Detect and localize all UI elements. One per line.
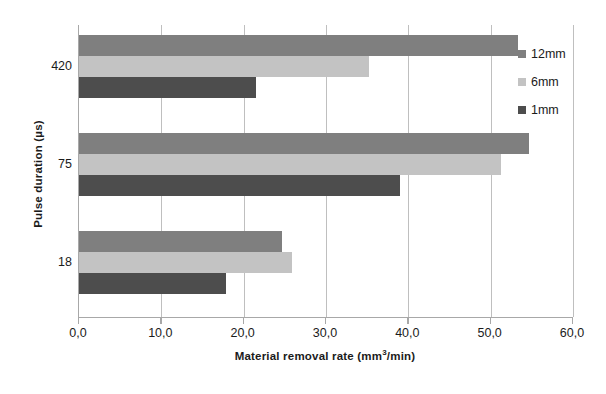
bar [79,231,282,252]
x-axis-tick-label: 60,0 [542,326,602,340]
legend-swatch-icon [518,50,526,58]
bar [79,273,226,294]
x-axis-tick-mark [325,318,326,324]
x-axis-title: Material removal rate (mm3/min) [78,348,572,362]
legend-item: 1mm [518,96,604,124]
bar [79,154,501,175]
legend-label: 12mm [531,47,566,61]
x-axis-tick-mark [243,318,244,324]
legend: 12mm6mm1mm [518,40,604,124]
y-axis-category-label: 75 [32,158,72,171]
legend-label: 1mm [531,103,559,117]
x-axis-ticks: 0,010,020,030,040,050,060,0 [78,318,572,342]
bar [79,77,256,98]
bar [79,56,369,77]
plot-area [78,25,573,318]
x-axis-tick-mark [572,318,573,324]
bar-group [79,133,573,196]
bar [79,252,292,273]
x-axis-tick-label: 10,0 [130,326,190,340]
bar-group [79,35,573,98]
y-axis-category-labels: 4207518 [26,25,72,317]
x-axis-tick-mark [160,318,161,324]
legend-swatch-icon [518,78,526,86]
x-axis-tick-label: 50,0 [460,326,520,340]
x-axis-tick-label: 30,0 [295,326,355,340]
x-axis-tick-label: 20,0 [213,326,273,340]
bar [79,133,529,154]
legend-swatch-icon [518,106,526,114]
bar [79,175,400,196]
x-axis-tick-mark [490,318,491,324]
x-axis-tick-label: 40,0 [377,326,437,340]
x-axis-title-main: Material removal rate (mm [235,350,383,362]
y-axis-category-label: 420 [32,60,72,73]
bar-chart: Pulse duration (µs) 4207518 0,010,020,03… [0,0,606,394]
x-axis-tick-mark [407,318,408,324]
bar [79,35,518,56]
x-axis-tick-label: 0,0 [48,326,108,340]
bar-group [79,231,573,294]
x-axis-tick-mark [78,318,79,324]
legend-item: 6mm [518,68,604,96]
y-axis-category-label: 18 [32,256,72,269]
legend-item: 12mm [518,40,604,68]
legend-label: 6mm [531,75,559,89]
x-axis-title-tail: /min) [387,350,415,362]
